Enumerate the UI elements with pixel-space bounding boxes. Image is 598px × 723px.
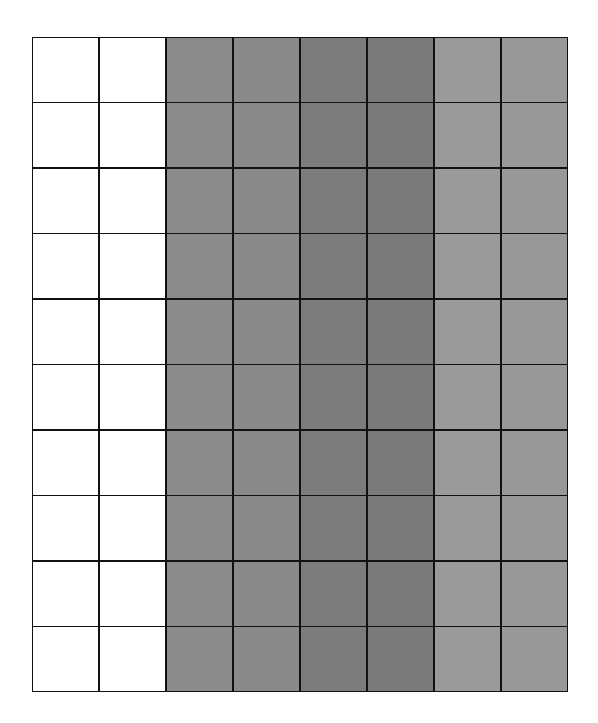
grid-cell-r1-c7 (435, 38, 500, 102)
grid-cell-r9-c5 (301, 562, 366, 626)
grid-cell-r9-c4 (234, 562, 299, 626)
grid-cell-r1-c2 (100, 38, 165, 102)
grid-cell-r8-c5 (301, 496, 366, 560)
grid-cell-r6-c8 (502, 365, 567, 429)
grid-cell-r10-c5 (301, 627, 366, 691)
grid-cell-r1-c1 (33, 38, 98, 102)
grid-cell-r10-c1 (33, 627, 98, 691)
grid-cell-r9-c7 (435, 562, 500, 626)
grid-cell-r10-c3 (167, 627, 232, 691)
grid-cell-r3-c8 (502, 169, 567, 233)
grid-cell-r3-c5 (301, 169, 366, 233)
grid-cell-r4-c4 (234, 234, 299, 298)
grid-cell-r6-c2 (100, 365, 165, 429)
grid-cell-r8-c4 (234, 496, 299, 560)
grid-cell-r7-c1 (33, 431, 98, 495)
grid-cell-r1-c5 (301, 38, 366, 102)
grid-cell-r9-c8 (502, 562, 567, 626)
grid-cell-r5-c2 (100, 300, 165, 364)
grid-cell-r10-c4 (234, 627, 299, 691)
grid-cell-r6-c6 (368, 365, 433, 429)
grid-cell-r8-c7 (435, 496, 500, 560)
grid-cell-r10-c6 (368, 627, 433, 691)
grid-cell-r2-c5 (301, 103, 366, 167)
grid-cell-r8-c2 (100, 496, 165, 560)
grid-cell-r4-c7 (435, 234, 500, 298)
grid-cell-r5-c7 (435, 300, 500, 364)
grid-cell-r3-c3 (167, 169, 232, 233)
grid-cell-r10-c2 (100, 627, 165, 691)
grid-cell-r3-c2 (100, 169, 165, 233)
grid-cell-r8-c8 (502, 496, 567, 560)
grid-cell-r6-c5 (301, 365, 366, 429)
grid-cell-r3-c6 (368, 169, 433, 233)
grid-cell-r5-c6 (368, 300, 433, 364)
color-swatch-grid (32, 37, 568, 692)
grid-cell-r10-c7 (435, 627, 500, 691)
grid-cell-r9-c1 (33, 562, 98, 626)
grid-cell-r1-c3 (167, 38, 232, 102)
grid-cell-r3-c4 (234, 169, 299, 233)
grid-cell-r3-c7 (435, 169, 500, 233)
grid-cell-r9-c3 (167, 562, 232, 626)
grid-cell-r4-c3 (167, 234, 232, 298)
grid-cell-r10-c8 (502, 627, 567, 691)
grid-cell-r2-c1 (33, 103, 98, 167)
grid-cell-r6-c4 (234, 365, 299, 429)
grid-cell-r8-c1 (33, 496, 98, 560)
grid-cell-r4-c1 (33, 234, 98, 298)
grid-cell-r2-c4 (234, 103, 299, 167)
grid-cell-r6-c1 (33, 365, 98, 429)
grid-cell-r5-c1 (33, 300, 98, 364)
grid-cell-r2-c7 (435, 103, 500, 167)
grid-cell-r4-c5 (301, 234, 366, 298)
grid-cell-r7-c4 (234, 431, 299, 495)
grid-cell-r7-c8 (502, 431, 567, 495)
grid-cell-r2-c3 (167, 103, 232, 167)
grid-cell-r7-c5 (301, 431, 366, 495)
grid-cell-r5-c4 (234, 300, 299, 364)
grid-cell-r7-c3 (167, 431, 232, 495)
grid-cell-r2-c2 (100, 103, 165, 167)
grid-cell-r1-c6 (368, 38, 433, 102)
grid-cell-r7-c6 (368, 431, 433, 495)
grid-cell-r6-c3 (167, 365, 232, 429)
grid-cell-r1-c8 (502, 38, 567, 102)
grid-cell-r6-c7 (435, 365, 500, 429)
grid-cell-r9-c6 (368, 562, 433, 626)
grid-cell-r7-c7 (435, 431, 500, 495)
grid-cell-r3-c1 (33, 169, 98, 233)
grid-cell-r5-c8 (502, 300, 567, 364)
grid-cell-r5-c3 (167, 300, 232, 364)
grid-cell-r5-c5 (301, 300, 366, 364)
grid-cell-r7-c2 (100, 431, 165, 495)
grid-cell-r4-c2 (100, 234, 165, 298)
grid-cell-r1-c4 (234, 38, 299, 102)
grid-cell-r2-c8 (502, 103, 567, 167)
grid-cell-r2-c6 (368, 103, 433, 167)
grid-cell-r8-c3 (167, 496, 232, 560)
grid-cell-r9-c2 (100, 562, 165, 626)
grid-cell-r4-c6 (368, 234, 433, 298)
grid-cell-r4-c8 (502, 234, 567, 298)
grid-cell-r8-c6 (368, 496, 433, 560)
